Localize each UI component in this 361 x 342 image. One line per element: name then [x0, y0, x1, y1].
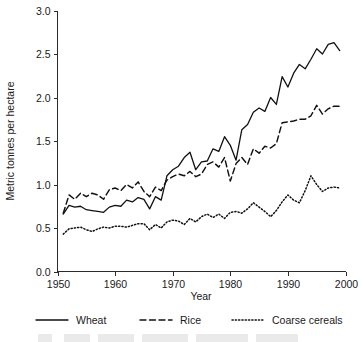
legend-label-coarse-cereals: Coarse cereals [272, 314, 343, 326]
series-line-rice [63, 105, 339, 213]
figure-caption-cropped [38, 334, 298, 342]
chart-figure: 0.00.51.01.52.02.53.0 195019601970198019… [0, 0, 361, 342]
y-axis-tick-labels: 0.00.51.01.52.02.53.0 [36, 5, 51, 278]
x-tick-label: 1960 [104, 278, 128, 290]
x-tick-label: 1980 [219, 278, 243, 290]
x-tick-label: 2000 [335, 278, 359, 290]
x-tick-label: 1970 [162, 278, 186, 290]
y-tick-label: 1.5 [36, 135, 51, 147]
x-axis-tick-labels: 195019601970198019902000 [47, 278, 359, 290]
cereal-yield-line-chart: 0.00.51.01.52.02.53.0 195019601970198019… [0, 0, 361, 342]
y-tick-label: 0.0 [36, 266, 51, 278]
x-axis-ticks [59, 272, 347, 276]
legend-label-wheat: Wheat [76, 314, 106, 326]
y-axis-ticks [54, 12, 58, 273]
series-line-coarse-cereals [63, 176, 339, 234]
x-tick-label: 1950 [47, 278, 71, 290]
x-tick-label: 1990 [277, 278, 301, 290]
y-axis-title: Metric tonnes per hectare [4, 81, 16, 200]
series-line-wheat [63, 43, 339, 214]
y-tick-label: 2.5 [36, 48, 51, 60]
x-axis-title: Year [190, 290, 212, 302]
chart-legend: WheatRiceCoarse cereals [36, 314, 343, 326]
data-series-group [63, 43, 339, 234]
legend-label-rice: Rice [180, 314, 201, 326]
y-tick-label: 3.0 [36, 5, 51, 17]
y-tick-label: 1.0 [36, 179, 51, 191]
y-tick-label: 2.0 [36, 92, 51, 104]
y-tick-label: 0.5 [36, 222, 51, 234]
